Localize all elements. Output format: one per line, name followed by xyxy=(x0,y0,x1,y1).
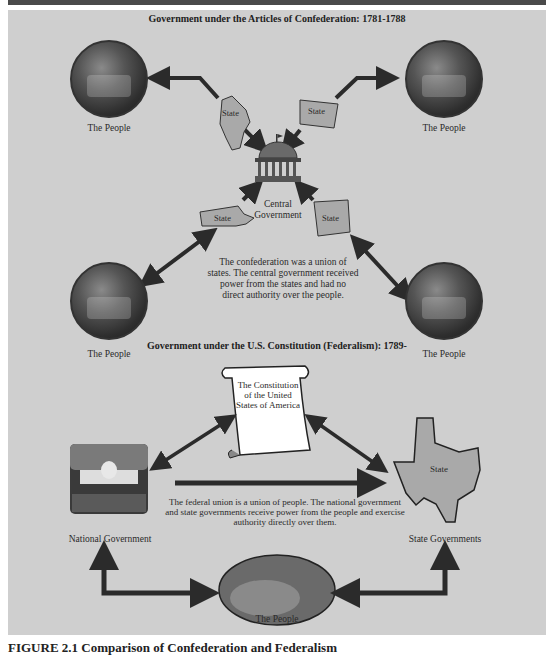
federalism-title: Government under the U.S. Constitution (… xyxy=(0,340,554,351)
arrow-constitution-national xyxy=(158,420,228,465)
state-governments-label: State Governments xyxy=(385,534,505,544)
arrow-people-national xyxy=(104,555,205,593)
texas-state-label: State xyxy=(430,464,448,474)
desc-line: and state governments receive power from… xyxy=(160,507,410,517)
constitution-text: The Constitution of the United States of… xyxy=(226,380,310,410)
people-label-bottom: The People xyxy=(237,614,317,624)
arrow-state-to-people-topright xyxy=(336,78,388,98)
people-photo-topleft xyxy=(70,40,148,118)
arrow-state-to-people-topleft xyxy=(158,78,218,98)
desc-line: authority directly over them. xyxy=(160,517,410,527)
constitution-line: The Constitution xyxy=(226,380,310,390)
figure-caption: FIGURE 2.1 Comparison of Confederation a… xyxy=(8,640,337,656)
arrow-people-state xyxy=(345,555,445,593)
arrow-state-to-center-2 xyxy=(288,130,300,145)
people-label-topright: The People xyxy=(405,123,483,133)
confederation-title: Government under the Articles of Confede… xyxy=(0,13,554,24)
arrow-constitution-state xyxy=(313,420,380,467)
central-label-line2: Government xyxy=(248,210,308,221)
desc-line: The federal union is a union of people. … xyxy=(160,497,410,507)
state-label-4: State xyxy=(322,213,339,223)
people-photo-topright xyxy=(405,40,483,118)
federalism-description: The federal union is a union of people. … xyxy=(160,497,410,527)
people-photo-bottomright xyxy=(405,262,483,340)
desc-line: power from the states and had no xyxy=(200,279,366,290)
constitution-line: States of America xyxy=(226,400,310,410)
arrow-state-to-center-1 xyxy=(243,128,260,145)
confederation-description: The confederation was a union of states.… xyxy=(200,257,366,301)
people-label-topleft: The People xyxy=(70,123,148,133)
state-label-1: State xyxy=(222,108,239,118)
central-government-label: Central Government xyxy=(248,199,308,221)
state-shape-maine xyxy=(220,96,250,150)
state-label-2: State xyxy=(308,106,325,116)
national-government-label: National Government xyxy=(40,534,180,544)
arrow-state-people-bottomleft xyxy=(148,235,208,280)
capitol-icon xyxy=(255,134,301,182)
desc-line: states. The central government received xyxy=(200,268,366,279)
people-photo-bottomleft xyxy=(70,262,148,340)
desc-line: direct authority over the people. xyxy=(200,290,366,301)
constitution-line: of the United xyxy=(226,390,310,400)
desc-line: The confederation was a union of xyxy=(200,257,366,268)
central-label-line1: Central xyxy=(248,199,308,210)
state-label-3: State xyxy=(214,213,231,223)
